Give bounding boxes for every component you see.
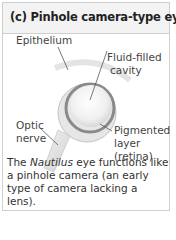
label-fluid-line2: cavity	[110, 64, 142, 76]
fluid-cavity-shape	[70, 85, 112, 127]
figure-caption: The Nautilus eye functions like a pinhol…	[7, 156, 169, 208]
label-optic-line2: nerve	[16, 132, 46, 144]
label-optic-line1: Optic	[16, 119, 44, 131]
label-fluid-line1: Fluid-filled	[107, 51, 162, 63]
label-pigment-line1: Pigmented	[114, 124, 170, 136]
label-epithelium: Epithelium	[16, 34, 72, 46]
caption-text-start: The	[7, 156, 30, 168]
caption-species-name: Nautilus	[30, 156, 73, 168]
label-pigment-line2: layer	[114, 137, 140, 149]
